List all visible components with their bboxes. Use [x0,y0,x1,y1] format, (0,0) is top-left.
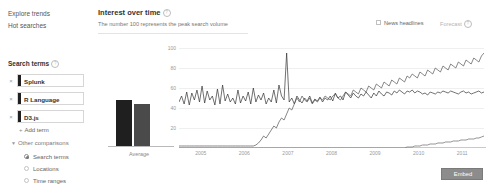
bar-splunk [116,100,132,146]
remove-term-icon[interactable]: × [8,114,14,120]
other-comparisons-label: Other comparisons [18,140,69,146]
sidebar-item-hot-searches[interactable]: Hot searches [8,22,46,30]
radio-search-terms[interactable]: Search terms [24,152,88,163]
x-axis-tick: 2007 [282,150,293,156]
search-term-input[interactable]: Splunk [17,74,84,87]
series-color-swatch [18,93,21,104]
search-term-label: Splunk [24,78,45,85]
page-subtitle: The number 100 represents the peak searc… [98,21,228,27]
news-headlines-label: News headlines [384,20,424,26]
search-term-row[interactable]: × Splunk [8,74,86,88]
chevron-down-icon: ▼ [11,140,16,146]
radio-icon [24,178,29,183]
help-icon[interactable]: ? [163,9,171,17]
y-axis-tick: 40 [165,105,176,111]
add-term-button[interactable]: +Add term [19,127,49,133]
x-axis-tick: 2009 [370,150,381,156]
page-title-label: Interest over time [98,8,161,17]
x-axis-tick: 2010 [413,150,424,156]
radio-label: Time ranges [33,178,66,184]
remove-term-icon[interactable]: × [8,78,14,84]
sidebar-item-explore-trends[interactable]: Explore trends [8,10,50,18]
series-color-swatch [18,75,21,86]
x-axis-tick: 2008 [326,150,337,156]
search-term-row[interactable]: × D3.js [8,110,86,124]
sidebar: Explore trends Hot searches Search terms… [0,0,92,196]
y-axis-tick: 20 [165,125,176,131]
other-comparisons-toggle[interactable]: ▼Other comparisons [11,140,69,146]
x-axis-tick: 2005 [195,150,206,156]
page-title: Interest over time? [98,8,171,17]
interest-over-time-line-chart: 10080604020 2005200620072008200920102011 [165,48,487,160]
embed-button[interactable]: Embed [441,168,483,180]
divider [98,33,248,34]
checkbox-icon[interactable] [376,20,381,25]
radio-label: Search terms [33,154,69,160]
google-trends-page: Explore trends Hot searches Search terms… [0,0,491,196]
search-terms-heading-label: Search terms [8,60,49,67]
radio-label: Locations [33,166,59,172]
main-panel: Interest over time? The number 100 repre… [92,0,491,196]
y-axis-tick: 100 [165,45,176,51]
series-line [179,53,484,105]
y-axis-tick: 80 [165,65,176,71]
radio-time-ranges[interactable]: Time ranges [24,176,88,187]
help-icon[interactable]: ? [464,20,472,28]
search-term-label: D3.js [24,114,39,121]
radio-locations[interactable]: Locations [24,164,88,175]
forecast-label: Forecast? [440,20,472,28]
search-term-label: R Language [24,96,59,103]
search-term-row[interactable]: × R Language [8,92,86,106]
search-terms-heading: Search terms? [8,60,59,68]
y-axis-tick: 60 [165,85,176,91]
embed-button-label: Embed [442,171,484,177]
help-icon[interactable]: ? [51,60,59,68]
x-axis-tick: 2011 [457,150,468,156]
add-term-label: Add term [25,127,49,133]
series-color-swatch [18,111,21,122]
search-term-input[interactable]: R Language [17,92,84,105]
radio-icon [24,166,29,171]
remove-term-icon[interactable]: × [8,96,14,102]
search-term-input[interactable]: D3.js [17,110,84,123]
x-axis-tick: 2006 [239,150,250,156]
radio-icon [24,154,29,159]
bar-r-language [134,104,150,146]
forecast-text: Forecast [440,21,462,27]
plus-icon: + [19,127,23,133]
line-series-group [179,48,484,148]
